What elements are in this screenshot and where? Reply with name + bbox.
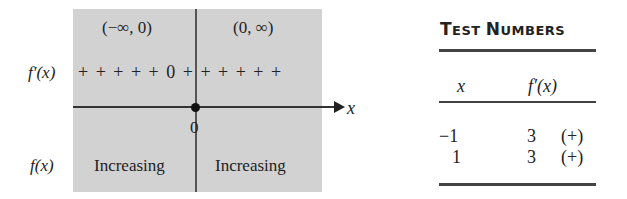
table-title: TEST NUMBERS xyxy=(440,19,565,39)
table-cell-x: 1 xyxy=(452,147,461,168)
table-top-rule xyxy=(439,49,596,52)
behavior-right: Increasing xyxy=(215,156,286,176)
axis-label: x xyxy=(347,98,355,119)
interval-left: (−∞, 0) xyxy=(102,18,152,38)
table-cell-sign: (+) xyxy=(561,147,583,168)
table-header-x: x xyxy=(457,76,465,97)
table-header-fprime: f′(x) xyxy=(528,76,557,97)
table-cell-x: −1 xyxy=(439,126,458,147)
table-header-rule xyxy=(439,101,596,103)
derivative-sign-row: + + + + + 0 + + + + + + xyxy=(78,62,283,83)
table-cell-value: 3 xyxy=(527,126,536,147)
behavior-left: Increasing xyxy=(94,156,165,176)
derivative-row-label: f′(x) xyxy=(28,63,55,83)
interval-right: (0, ∞) xyxy=(233,18,273,38)
table-bottom-rule xyxy=(439,183,596,186)
function-row-label: f(x) xyxy=(30,156,54,176)
table-cell-value: 3 xyxy=(527,147,536,168)
axis-arrow-icon xyxy=(334,101,345,113)
critical-point-dot xyxy=(191,103,200,112)
x-axis-line xyxy=(73,106,338,108)
table-cell-sign: (+) xyxy=(561,126,583,147)
critical-point-label: 0 xyxy=(190,118,199,138)
critical-point-divider xyxy=(195,9,197,192)
